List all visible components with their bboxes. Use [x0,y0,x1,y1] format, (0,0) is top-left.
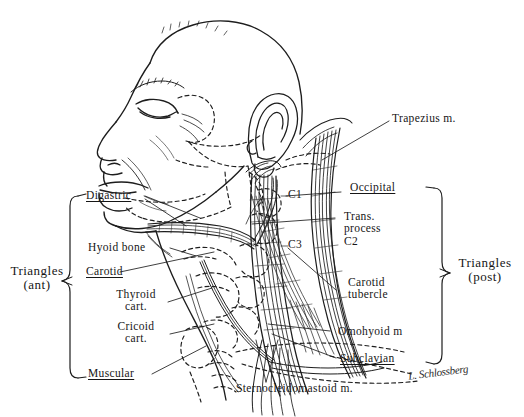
figure-linework [0,0,524,417]
right-bracket-label-line1: Triangles [458,255,511,270]
label-sternocleidomastoid: Sternocleidomastoid m. [236,382,353,394]
left-bracket-label-line1: Triangles [10,263,63,278]
label-c3: C3 [288,238,302,250]
label-muscular: Muscular [88,367,134,379]
label-hyoid-bone: Hyoid bone [88,241,145,253]
left-bracket-label: Triangles (ant) [6,264,68,292]
label-carotid-tubercle-line1: Carotid [348,276,385,288]
label-cricoid-cartilage-line1: Cricoid [118,320,155,332]
label-cricoid-cartilage-line2: cart. [125,332,147,344]
label-occipital: Occipital [350,181,395,193]
right-bracket-label-line2: (post) [468,269,501,284]
label-trapezius: Trapezius m. [392,112,456,124]
label-cricoid-cartilage: Cricoid cart. [104,320,168,345]
label-digastric: Digastric [86,189,131,201]
label-omohyoid: Omohyoid m [338,325,403,337]
label-transverse-process-line2: process [344,222,381,234]
label-carotid-tubercle-line2: tubercle [348,288,388,300]
right-bracket-label: Triangles (post) [452,256,518,284]
label-transverse-process-line1: Trans. [344,210,375,222]
right-bracket [426,187,450,364]
label-c1: C1 [288,188,302,200]
label-carotid-tubercle: Carotid tubercle [348,276,388,301]
label-subclavian: Subclavian [340,352,395,364]
label-thyroid-cartilage: Thyroid cart. [104,288,168,313]
label-thyroid-cartilage-line2: cart. [125,300,147,312]
label-carotid: Carotid [86,265,123,277]
label-transverse-process-line3: C2 [344,235,358,247]
left-bracket-label-line2: (ant) [23,277,50,292]
label-transverse-process: Trans. process C2 [344,210,381,247]
label-thyroid-cartilage-line1: Thyroid [116,288,156,300]
anatomical-figure: Triangles (ant) Triangles (post) Digastr… [0,0,524,417]
